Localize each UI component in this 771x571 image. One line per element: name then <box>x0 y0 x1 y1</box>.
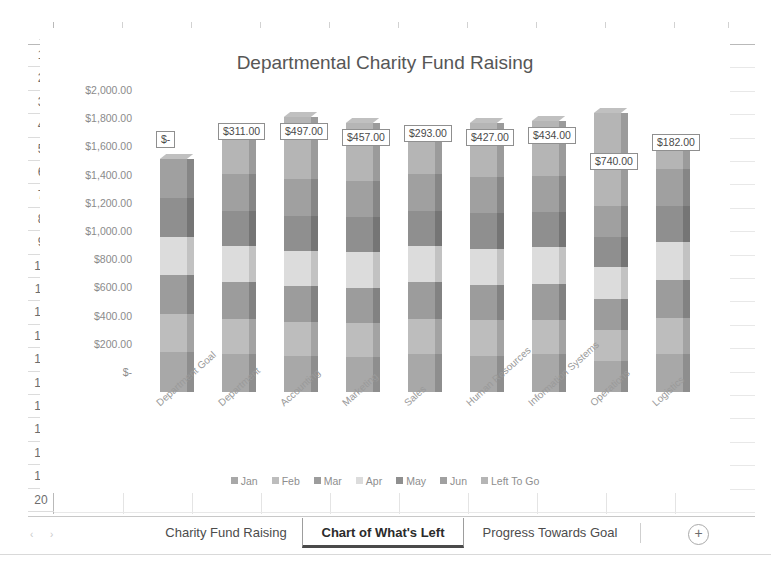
bar-segment-side <box>683 354 690 392</box>
legend-swatch <box>231 477 238 484</box>
bar-segment-side <box>683 242 690 280</box>
bar-segment-may <box>470 213 497 248</box>
bar-segment-jun <box>222 174 249 211</box>
bar-segment-may <box>532 212 559 247</box>
bar-segment-mar <box>346 288 373 323</box>
bar-segment-side <box>559 212 566 247</box>
bar-segment-jun <box>594 206 621 237</box>
chart-legend[interactable]: JanFebMarAprMayJunLeft To Go <box>40 474 730 487</box>
bar-segment-side <box>435 174 442 211</box>
legend-label: May <box>406 475 426 487</box>
legend-label: Jan <box>241 475 258 487</box>
stacked-bar <box>160 159 187 392</box>
bar-segment-left-to-go <box>222 135 249 174</box>
bar-segment-side <box>187 314 194 352</box>
bar-segment-side <box>373 217 380 252</box>
sheet-tab-chart-of-what-s-left[interactable]: Chart of What's Left <box>302 518 464 548</box>
legend-item-feb[interactable]: Feb <box>272 474 300 487</box>
bar-segment-side <box>559 284 566 321</box>
y-axis-tick: $- <box>60 366 132 378</box>
bar-segment-side <box>497 320 504 355</box>
legend-item-left-to-go[interactable]: Left To Go <box>481 474 539 487</box>
chart-title: Departmental Charity Fund Raising <box>40 52 730 74</box>
data-label: $- <box>156 131 175 148</box>
bar-segment-apr <box>532 247 559 284</box>
bar-segment-jun <box>160 159 187 198</box>
bar-segment-side <box>683 206 690 243</box>
bar-segment-mar <box>160 275 187 314</box>
data-label: $434.00 <box>528 127 576 144</box>
bar-segment-side <box>435 354 442 392</box>
y-axis-tick: $1,800.00 <box>60 112 132 124</box>
excel-window: ABCDEFGHIJ 12345678910111213141516171819… <box>0 0 771 571</box>
y-axis-tick: $800.00 <box>60 253 132 265</box>
bar-segment-side <box>249 282 256 319</box>
sheet-tab-progress-towards-goal[interactable]: Progress Towards Goal <box>464 518 636 548</box>
y-axis-tick: $1,200.00 <box>60 197 132 209</box>
bar-segment-side <box>373 288 380 323</box>
bar-segment-side <box>683 280 690 318</box>
bar-segment-side <box>621 267 628 298</box>
stacked-bar <box>656 146 683 392</box>
bar-segment-side <box>311 322 318 356</box>
y-axis-labels: $2,000.00$1,800.00$1,600.00$1,400.00$1,2… <box>60 90 132 390</box>
bar-segment-feb <box>160 314 187 352</box>
bar-segment-apr <box>594 267 621 298</box>
bar-segment-may <box>346 217 373 252</box>
y-axis-tick: $1,400.00 <box>60 169 132 181</box>
bar-segment-side <box>435 211 442 246</box>
bar-segment-apr <box>284 251 311 286</box>
stacked-bar <box>284 117 311 392</box>
bar-segment-apr <box>222 246 249 283</box>
tabbar-bottom-divider <box>0 554 771 555</box>
stacked-bar <box>532 121 559 392</box>
bar-segment-side <box>621 237 628 267</box>
sheet-tab-charity-fund-raising[interactable]: Charity Fund Raising <box>150 518 302 548</box>
bar-segment-side <box>249 319 256 354</box>
bar-segment-side <box>683 169 690 206</box>
bar-segment-side <box>187 198 194 237</box>
legend-item-jun[interactable]: Jun <box>440 474 467 487</box>
bar-segment-apr <box>346 252 373 287</box>
bar-segment-apr <box>408 246 435 283</box>
bar-segment-may <box>284 216 311 251</box>
bar-segment-side <box>373 323 380 357</box>
legend-label: Jun <box>450 475 467 487</box>
sheet-nav-arrows[interactable]: ‹ › <box>30 525 86 545</box>
legend-swatch <box>481 477 488 484</box>
bar-segment-side <box>559 247 566 284</box>
bar-segment-side <box>249 211 256 246</box>
bar-segment-may <box>594 237 621 267</box>
legend-item-jan[interactable]: Jan <box>231 474 258 487</box>
legend-label: Feb <box>282 475 300 487</box>
bar-segment-jun <box>408 174 435 211</box>
tab-separator <box>640 523 641 543</box>
bar-segment-side <box>311 216 318 251</box>
bar-segment-may <box>656 206 683 243</box>
bar-segment-side <box>559 176 566 213</box>
bar-segment-side <box>621 330 628 360</box>
legend-label: Apr <box>366 475 382 487</box>
bar-segment-feb <box>284 322 311 356</box>
bar-segment-side <box>311 179 318 216</box>
bar-segment-side <box>311 286 318 321</box>
add-sheet-button[interactable]: + <box>688 524 709 545</box>
bar-segment-apr <box>470 249 497 286</box>
legend-item-may[interactable]: May <box>396 474 426 487</box>
legend-item-apr[interactable]: Apr <box>356 474 382 487</box>
chart-object[interactable]: Departmental Charity Fund Raising $2,000… <box>40 28 730 493</box>
bar-segment-mar <box>594 299 621 330</box>
bar-segment-apr <box>656 242 683 280</box>
bar-segment-jun <box>470 177 497 214</box>
y-axis-tick: $1,000.00 <box>60 225 132 237</box>
data-label: $293.00 <box>404 125 452 142</box>
bar-segment-side <box>187 159 194 198</box>
data-label: $457.00 <box>342 129 390 146</box>
bar-segment-side <box>373 252 380 287</box>
legend-item-mar[interactable]: Mar <box>314 474 342 487</box>
stacked-bar <box>470 123 497 392</box>
y-axis-tick: $600.00 <box>60 281 132 293</box>
legend-swatch <box>272 477 279 484</box>
bar-segment-feb <box>532 320 559 354</box>
legend-label: Mar <box>324 475 342 487</box>
